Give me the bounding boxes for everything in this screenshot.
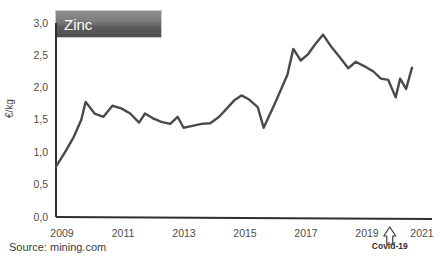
- zinc-price-line: [56, 35, 412, 167]
- source-note: Source: mining.com: [9, 241, 106, 253]
- plot-area: [0, 0, 443, 261]
- covid-19-annotation-label: Covid-19: [361, 241, 419, 251]
- x-axis-line: [56, 217, 432, 219]
- zinc-price-chart: Zinc €/kg 3,0 2,5 2,0 1,5 1,0 0,5 0,0 20…: [0, 0, 443, 261]
